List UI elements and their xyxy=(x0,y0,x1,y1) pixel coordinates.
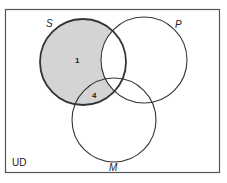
region-label-s-m-not-p: 4 xyxy=(92,91,97,100)
universe-label: UD xyxy=(12,157,26,168)
set-label-s: S xyxy=(46,18,53,29)
set-label-p: P xyxy=(175,19,182,30)
region-label-s-only: 1 xyxy=(75,56,80,65)
set-label-m: M xyxy=(109,162,118,173)
venn-diagram: S P M 1 4 UD xyxy=(0,0,227,183)
